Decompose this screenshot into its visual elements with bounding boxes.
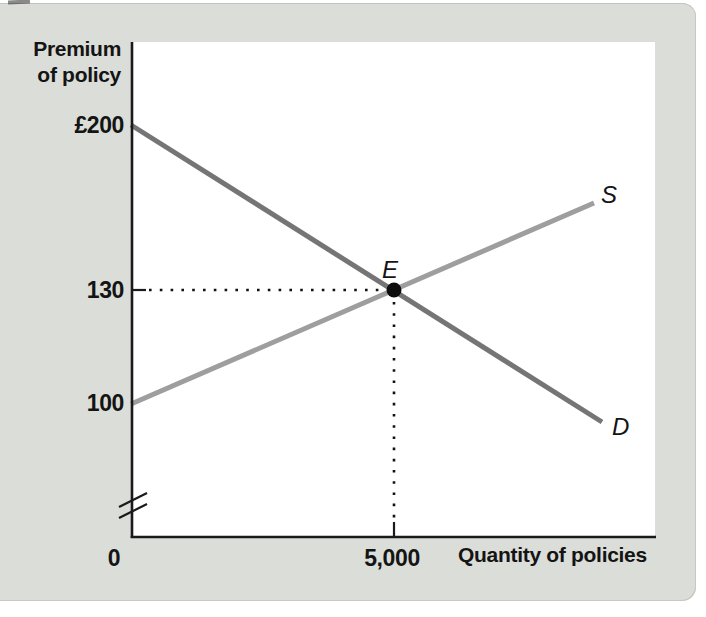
- supply-curve-label: S: [601, 181, 617, 209]
- demand-curve-label: D: [612, 413, 629, 441]
- equilibrium-label: E: [382, 256, 398, 284]
- y-axis-title-line2: of policy: [20, 62, 121, 88]
- demand-curve: [131, 125, 602, 422]
- y-axis-title: Premium of policy: [20, 36, 121, 88]
- x-axis-title: Quantity of policies: [458, 543, 647, 567]
- xtick-label-origin: 0: [100, 545, 128, 572]
- ytick-label-130: 130: [39, 277, 124, 304]
- figure-stage: Premium of policy £200 130 100 0 5,000 Q…: [0, 0, 706, 617]
- equilibrium-point: [387, 283, 402, 298]
- y-axis-title-line1: Premium: [20, 36, 121, 62]
- xtick-label-5000: 5,000: [359, 545, 425, 572]
- chart-canvas: [0, 0, 706, 617]
- ytick-label-200: £200: [39, 112, 124, 139]
- ytick-label-100: 100: [39, 390, 124, 417]
